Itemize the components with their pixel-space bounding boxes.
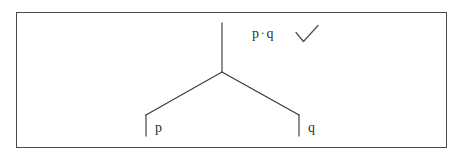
figure-border (16, 12, 447, 148)
formula-operand-right: q (267, 26, 275, 41)
leaf-p-label: p (155, 121, 162, 135)
formula-label: p·q (252, 26, 274, 41)
formula-operand-left: p (252, 26, 260, 41)
formula-operator-dot: · (260, 25, 267, 40)
figure-root: p q p·q (0, 0, 463, 160)
leaf-q-label: q (308, 121, 315, 135)
